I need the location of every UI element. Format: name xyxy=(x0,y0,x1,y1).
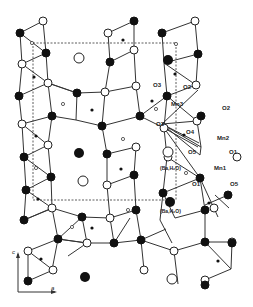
label-o1-right: O1 xyxy=(229,149,238,155)
label-o3-top: O3 xyxy=(153,82,162,88)
label-o5-left: O5 xyxy=(188,149,197,155)
label-mn2: Mn2 xyxy=(217,135,230,141)
label-o5-right: O5 xyxy=(230,181,239,187)
label-mn3: Mn3 xyxy=(171,101,184,107)
bonds xyxy=(19,21,232,284)
axis-label-a: a xyxy=(51,285,55,291)
label-o4: O4 xyxy=(186,129,195,135)
label-o3-mid: O3 xyxy=(156,121,165,127)
label-mn1: Mn1 xyxy=(214,165,227,171)
label-o2-right: O2 xyxy=(222,105,231,111)
oxygen-filled-atoms xyxy=(15,17,236,289)
label-ba-h2o-open: (Ba,H₂O) xyxy=(160,165,181,171)
label-ba-h2o-filled: (Ba,H₂O) xyxy=(160,208,181,214)
crystal-structure-diagram: O3 O2 Mn3 O3 O4 O2 Mn2 O5 O1 Mn1 O1 O5 (… xyxy=(0,0,253,307)
label-o2-top: O2 xyxy=(183,84,192,90)
axis-label-c: c xyxy=(12,249,15,255)
label-o1-low: O1 xyxy=(192,181,201,187)
